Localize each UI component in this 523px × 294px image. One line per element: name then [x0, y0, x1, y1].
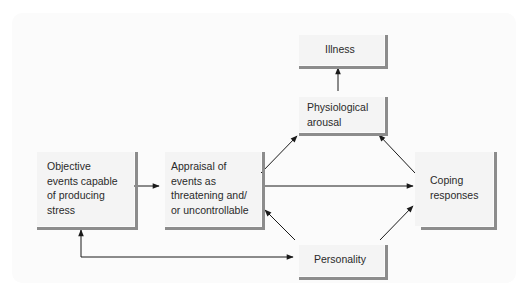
box-shadow: [299, 277, 388, 280]
box-shadow: [135, 152, 138, 230]
node-label: Objective events capable of producing st…: [47, 159, 118, 217]
box-shadow: [385, 35, 388, 69]
box-shadow: [37, 227, 138, 230]
box-shadow: [494, 152, 497, 230]
node-coping-responses: Coping responses: [415, 152, 493, 226]
arrow-personality-objective-bidirectional: [81, 230, 293, 257]
node-label: Physiological arousal: [307, 100, 368, 129]
node-label: Appraisal of events as threatening and/ …: [171, 159, 249, 217]
node-appraisal: Appraisal of events as threatening and/ …: [165, 152, 261, 226]
node-physiological-arousal: Physiological arousal: [299, 97, 384, 132]
node-label: Coping responses: [430, 173, 478, 202]
arrow-coping-to-arousal: [379, 135, 415, 173]
box-shadow: [299, 133, 388, 136]
arrow-personality-to-appraisal: [265, 210, 295, 240]
node-illness: Illness: [299, 35, 384, 65]
box-shadow: [299, 66, 388, 69]
node-label: Illness: [325, 42, 355, 57]
box-shadow: [262, 152, 265, 230]
node-label: Personality: [314, 252, 366, 267]
box-shadow: [385, 97, 388, 136]
box-shadow: [165, 227, 265, 230]
arrow-appraisal-to-arousal: [261, 136, 297, 173]
diagram-arrows: [0, 0, 523, 294]
box-shadow: [385, 245, 388, 280]
arrow-personality-to-coping: [380, 206, 413, 240]
box-shadow: [421, 227, 497, 230]
node-personality: Personality: [299, 245, 384, 276]
node-objective-events: Objective events capable of producing st…: [37, 152, 134, 226]
